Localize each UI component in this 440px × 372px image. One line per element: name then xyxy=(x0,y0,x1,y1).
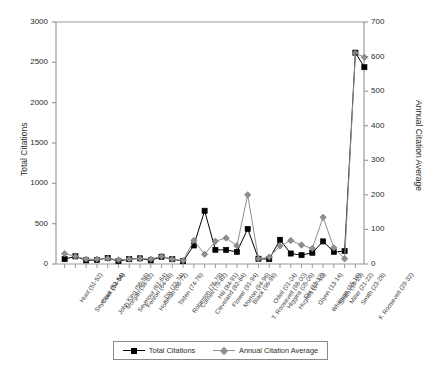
y-axis-right-tick-label: 300 xyxy=(371,155,405,164)
y-axis-right-tick-label: 500 xyxy=(371,86,405,95)
legend-marker-diamond-icon xyxy=(213,346,235,355)
y-axis-right-tick-label: 200 xyxy=(371,190,405,199)
y-axis-left-tick-label: 2000 xyxy=(14,98,48,107)
y-axis-right-tick-label: 700 xyxy=(371,17,405,26)
y-axis-left-tick-label: 500 xyxy=(14,219,48,228)
legend-item-total-citations: Total Citations xyxy=(123,346,195,355)
y-axis-left-tick-label: 2500 xyxy=(14,57,48,66)
legend-label-total-citations: Total Citations xyxy=(149,346,195,355)
y-axis-left-tick-label: 0 xyxy=(14,259,48,268)
y-axis-left-tick-label: 1000 xyxy=(14,178,48,187)
chart-container: Total Citations Annual Citation Average … xyxy=(0,0,440,372)
y-axis-right-tick-label: 600 xyxy=(371,52,405,61)
legend-label-annual-citation-average: Annual Citation Average xyxy=(239,346,318,355)
legend-marker-square-icon xyxy=(123,346,145,355)
y-axis-right-tick-label: 0 xyxy=(371,259,405,268)
legend-item-annual-citation-average: Annual Citation Average xyxy=(213,346,318,355)
y-axis-left-tick-label: 3000 xyxy=(14,17,48,26)
y-axis-right-tick-label: 100 xyxy=(371,224,405,233)
y-axis-right-tick-label: 400 xyxy=(371,121,405,130)
y-axis-left-tick-label: 1500 xyxy=(14,138,48,147)
chart-legend: Total Citations Annual Citation Average xyxy=(113,341,328,360)
